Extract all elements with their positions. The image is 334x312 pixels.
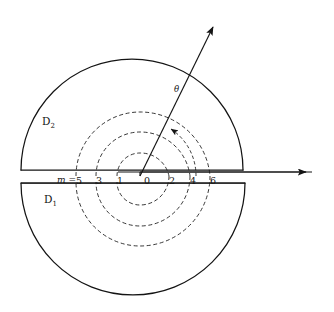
- axis-tick-label-3: 3: [96, 176, 102, 186]
- region-label-upper: D2: [42, 116, 55, 130]
- region-lower-subscript: 1: [52, 200, 56, 208]
- axis-tick-label-5: 5: [76, 176, 82, 186]
- spiral-diagram-svg: [0, 0, 334, 312]
- axis-tick-label-1: 1: [117, 176, 123, 186]
- theta-angle-label: θ: [174, 85, 179, 94]
- axis-label-m-equals: m =: [57, 176, 76, 185]
- axis-tick-label-4: 4: [190, 176, 196, 186]
- axis-tick-label-0: 0: [144, 176, 150, 186]
- region-upper-subscript: 2: [50, 122, 54, 130]
- figure-root: m = 5 3 1 0 2 4 6 D2 D1 θ: [0, 0, 334, 312]
- outer-boundary-upper: [21, 59, 243, 170]
- region-label-lower: D1: [44, 194, 57, 208]
- axis-tick-label-6: 6: [210, 176, 216, 186]
- axis-tick-label-2: 2: [169, 176, 175, 186]
- ray-theta: [140, 27, 213, 176]
